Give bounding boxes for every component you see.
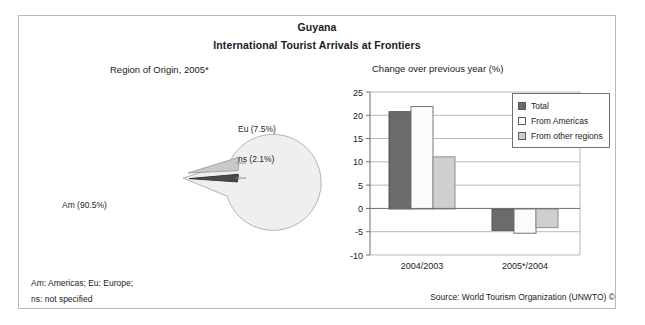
y-tick-label: 20 [353, 111, 363, 121]
pie-slice-am [183, 134, 321, 230]
x-tick-label: 2004/2003 [401, 261, 444, 271]
bar-total-2005-2004 [492, 209, 514, 230]
y-tick-label: -5 [355, 227, 363, 237]
bar-from-americas-2005-2004 [514, 209, 536, 233]
bar-from-other-regions-2005-2004 [536, 209, 558, 228]
pie-chart-panel: Region of Origin, 2005* Am (90.5%) Eu (7… [30, 60, 330, 260]
pie-label-ns: ns (2.1%) [238, 154, 274, 164]
note-line-1: Am: Americas; Eu: Europe; [31, 275, 133, 291]
bar-total-2004-2003 [389, 112, 411, 209]
page-subtitle: International Tourist Arrivals at Fronti… [18, 38, 616, 53]
abbreviation-notes: Am: Americas; Eu: Europe; ns: not specif… [31, 275, 133, 307]
bar-from-other-regions-2004-2003 [433, 157, 455, 209]
y-tick-label: 15 [353, 134, 363, 144]
bar-chart-title: Change over previous year (%) [372, 63, 503, 74]
pie-label-eu: Eu (7.5%) [238, 124, 276, 134]
bar-from-americas-2004-2003 [411, 107, 433, 209]
legend-swatch-from-americas [518, 117, 526, 125]
legend-swatch-from-other-regions [518, 132, 526, 140]
y-tick-marks [366, 92, 370, 255]
source-note: Source: World Tourism Organization (UNWT… [430, 292, 615, 302]
y-tick-label: 5 [358, 181, 363, 191]
legend-item-from-other-regions: From other regions [518, 128, 603, 143]
page-title: Guyana [18, 20, 616, 35]
y-tick-label: -10 [350, 251, 363, 261]
figure-title-block: Guyana International Tourist Arrivals at… [18, 20, 616, 53]
pie-slice-eu [188, 157, 239, 173]
bar-chart-panel: Change over previous year (%) [340, 60, 610, 275]
bar-chart-legend: Total From Americas From other regions [512, 93, 610, 148]
chart-canvas: Guyana International Tourist Arrivals at… [0, 0, 645, 325]
note-line-2: ns: not specified [31, 291, 133, 307]
legend-swatch-total [518, 102, 526, 110]
y-tick-label: 10 [353, 157, 363, 167]
legend-label-total: Total [531, 101, 549, 111]
y-tick-label: 25 [353, 88, 363, 98]
legend-label-from-other-regions: From other regions [531, 131, 603, 141]
legend-item-total: Total [518, 98, 603, 113]
pie-label-am: Am (90.5%) [62, 200, 107, 210]
y-tick-label: 0 [358, 204, 363, 214]
pie-chart-graphic [30, 60, 330, 260]
x-tick-label: 2005*/2004 [502, 261, 548, 271]
legend-label-from-americas: From Americas [531, 116, 588, 126]
legend-item-from-americas: From Americas [518, 113, 603, 128]
